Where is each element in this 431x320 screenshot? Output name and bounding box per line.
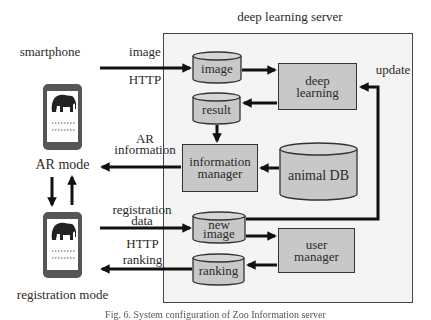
smartphone-registration-mode-icon (43, 212, 82, 278)
result-db-label: result (193, 104, 240, 115)
new-image-db-label-line2: image (193, 228, 245, 239)
deep-learning-box: deep learning (278, 63, 357, 110)
image-db-label: image (193, 63, 241, 74)
user-manager-label-line2: manager (294, 251, 339, 263)
user-manager-box: user manager (278, 228, 355, 273)
figure-caption: Fig. 6. System configuration of Zoo Info… (0, 309, 431, 320)
deep-learning-label-line2: learning (296, 87, 339, 99)
ranking-db-label: ranking (193, 265, 244, 276)
animal-db-label: animal DB (280, 170, 357, 181)
information-manager-box: information manager (182, 144, 258, 192)
information-manager-label-line2: manager (198, 168, 243, 180)
smartphone-ar-mode-icon (43, 84, 82, 150)
